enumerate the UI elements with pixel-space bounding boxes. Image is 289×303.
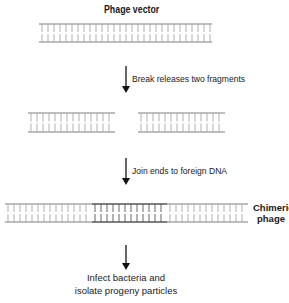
step-join-label: Join ends to foreign DNA xyxy=(132,165,227,176)
chimeric-left-arm-dna xyxy=(5,204,92,222)
final-step-line2: isolate progeny particles xyxy=(56,284,196,297)
arrow-head xyxy=(122,263,130,270)
chimeric-label-line1: Chimeric xyxy=(253,202,289,213)
chimeric-label-line2: phage xyxy=(253,213,289,224)
left-fragment-dna xyxy=(28,113,115,132)
down-arrow-icon xyxy=(122,66,130,93)
final-step-label: Infect bacteria and isolate progeny part… xyxy=(56,271,196,297)
chimeric-foreign-insert-dna xyxy=(92,204,167,222)
down-arrow-icon xyxy=(122,245,130,270)
right-fragment-dna xyxy=(138,113,225,132)
final-step-line1: Infect bacteria and xyxy=(56,271,196,284)
phage-vector-dna xyxy=(39,24,212,42)
down-arrow-icon xyxy=(122,158,130,185)
phage-vector-title: Phage vector xyxy=(104,4,159,15)
arrow-head xyxy=(122,86,130,93)
arrow-head xyxy=(122,178,130,185)
chimeric-right-arm-dna xyxy=(167,204,248,222)
chimeric-phage-label: Chimeric phage xyxy=(253,202,289,224)
diagram-canvas xyxy=(0,0,289,303)
step-break-label: Break releases two fragments xyxy=(132,73,245,84)
